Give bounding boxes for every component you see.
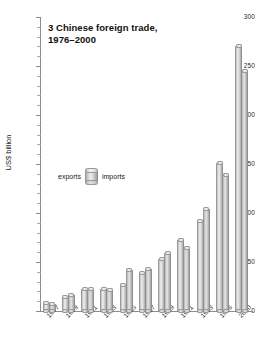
bar-imports bbox=[203, 209, 210, 311]
bar-imports bbox=[68, 295, 75, 311]
bar-top-ellipse bbox=[165, 251, 171, 255]
bar-bottom-ellipse bbox=[159, 309, 165, 313]
bar-top-ellipse bbox=[88, 287, 94, 291]
bar-bottom-ellipse bbox=[139, 309, 145, 313]
bar-top-ellipse bbox=[68, 293, 74, 297]
bar-top-ellipse bbox=[184, 246, 190, 250]
bar-top-ellipse bbox=[49, 302, 55, 306]
bar-top-ellipse bbox=[139, 271, 145, 275]
bar-bottom-ellipse bbox=[236, 309, 242, 313]
bar-bottom-ellipse bbox=[101, 309, 107, 313]
bar-bottom-ellipse bbox=[43, 309, 49, 313]
y-axis-title: US$ billion bbox=[4, 118, 13, 188]
bar-exports bbox=[216, 163, 223, 311]
bar-top-ellipse bbox=[120, 283, 126, 287]
bar-top-ellipse bbox=[107, 288, 113, 292]
bar-group bbox=[177, 17, 196, 311]
bar-group bbox=[197, 17, 216, 311]
legend-label-exports: exports bbox=[58, 173, 81, 180]
bar-exports bbox=[158, 259, 165, 311]
bar-group bbox=[216, 17, 235, 311]
chart-figure: US$ billion 050100150200250300 197719791… bbox=[0, 0, 255, 348]
bar-bottom-ellipse bbox=[197, 309, 203, 313]
bar-imports bbox=[87, 289, 94, 311]
bar-group bbox=[235, 17, 254, 311]
bar-bottom-ellipse bbox=[68, 309, 74, 313]
bar-bottom-ellipse bbox=[165, 309, 171, 313]
y-axis-label-area: US$ billion bbox=[0, 0, 36, 348]
bar-imports bbox=[222, 175, 229, 311]
bar-group bbox=[139, 17, 158, 311]
bar-top-ellipse bbox=[82, 287, 88, 291]
bar-bottom-ellipse bbox=[203, 309, 209, 313]
bar-bottom-ellipse bbox=[88, 309, 94, 313]
bar-bottom-ellipse bbox=[120, 309, 126, 313]
bar-bottom-ellipse bbox=[184, 309, 190, 313]
bar-bottom-ellipse bbox=[178, 309, 184, 313]
bar-exports bbox=[177, 240, 184, 311]
bar-exports bbox=[43, 303, 50, 311]
bar-exports bbox=[197, 221, 204, 311]
bar-top-ellipse bbox=[159, 257, 165, 261]
bar-bottom-ellipse bbox=[107, 309, 113, 313]
bar-top-ellipse bbox=[178, 238, 184, 242]
bar-bottom-ellipse bbox=[49, 309, 55, 313]
bar-top-ellipse bbox=[223, 173, 229, 177]
bar-top-ellipse bbox=[145, 267, 151, 271]
bar-group bbox=[100, 17, 119, 311]
bar-group bbox=[43, 17, 62, 311]
cylinder-icon bbox=[85, 168, 98, 185]
bar-exports bbox=[81, 289, 88, 311]
bar-top-ellipse bbox=[203, 207, 209, 211]
bar-imports bbox=[106, 290, 113, 311]
bar-exports bbox=[120, 285, 127, 312]
bar-bottom-ellipse bbox=[126, 309, 132, 313]
bar-exports bbox=[62, 297, 69, 311]
bar-exports bbox=[235, 46, 242, 311]
bar-top-ellipse bbox=[43, 301, 49, 305]
bar-top-ellipse bbox=[126, 268, 132, 272]
legend-label-imports: imports bbox=[102, 173, 125, 180]
bar-top-ellipse bbox=[197, 219, 203, 223]
bar-group bbox=[158, 17, 177, 311]
bar-imports bbox=[164, 253, 171, 311]
bar-exports bbox=[139, 273, 146, 311]
bar-group bbox=[62, 17, 81, 311]
bar-bottom-ellipse bbox=[62, 309, 68, 313]
bar-top-ellipse bbox=[101, 287, 107, 291]
bar-bottom-ellipse bbox=[145, 309, 151, 313]
chart-title: 3 Chinese foreign trade, 1976–2000 bbox=[48, 22, 157, 46]
bar-imports bbox=[145, 269, 152, 311]
plot-area bbox=[41, 17, 253, 311]
bar-imports bbox=[49, 304, 56, 311]
bar-bottom-ellipse bbox=[223, 309, 229, 313]
cylinder-bottom bbox=[85, 180, 98, 185]
bar-bottom-ellipse bbox=[82, 309, 88, 313]
bar-bottom-ellipse bbox=[242, 309, 248, 313]
cylinder-top bbox=[85, 168, 98, 173]
bar-group bbox=[120, 17, 139, 311]
bar-group bbox=[81, 17, 100, 311]
chart-legend: exports imports bbox=[58, 168, 125, 185]
bar-imports bbox=[183, 248, 190, 311]
bar-imports bbox=[126, 270, 133, 311]
bar-top-ellipse bbox=[62, 295, 68, 299]
bar-top-ellipse bbox=[236, 44, 242, 48]
bar-top-ellipse bbox=[242, 69, 248, 73]
bar-exports bbox=[100, 289, 107, 311]
bar-top-ellipse bbox=[217, 161, 223, 165]
bar-bottom-ellipse bbox=[217, 309, 223, 313]
bar-imports bbox=[241, 71, 248, 311]
